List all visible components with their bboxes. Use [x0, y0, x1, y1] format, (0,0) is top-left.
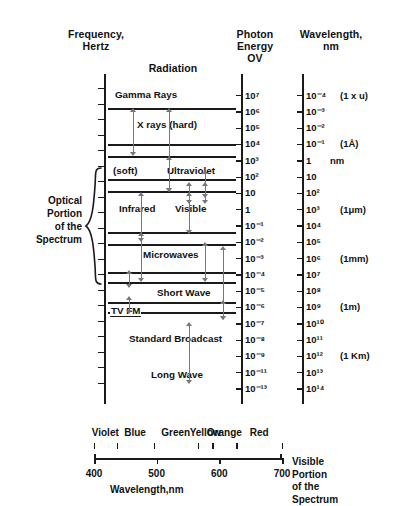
wavelength-tick-note: (1Å) [340, 139, 358, 149]
visible-tick-label: 600 [211, 468, 228, 479]
photon-energy-tick-label: 10⁻¹³ [245, 384, 267, 394]
wavelength-tick-note: (1 x u) [340, 91, 368, 101]
wavelength-tick-label: 1 [306, 156, 311, 166]
band-extent-arrow [186, 322, 193, 384]
visible-major-tick [157, 458, 159, 464]
photon-energy-tick [236, 323, 241, 324]
wavelength-tick-label: 10¹² [306, 351, 323, 361]
frequency-tick [98, 88, 105, 89]
band-extent-arrow [186, 192, 193, 234]
radiation-column-header: Radiation [128, 62, 218, 74]
visible-tick-label: 400 [86, 468, 103, 479]
frequency-tick [98, 104, 105, 105]
band-label: Gamma Rays [114, 90, 178, 100]
visible-color-separator [154, 443, 155, 449]
band-label: Standard Broadcast [128, 334, 223, 344]
photon-energy-tick-label: 10⁻¹¹ [245, 368, 267, 378]
wavelength-axis-line [302, 74, 304, 404]
wavelength-tick-note: (1m) [340, 302, 360, 312]
optical-portion-label: Optical Portion of the Spectrum [6, 194, 82, 246]
frequency-tick [98, 336, 105, 337]
visible-major-tick [94, 458, 96, 464]
wavelength-tick-label: 10¹¹ [306, 335, 323, 345]
photon-energy-tick-label: 1 [245, 205, 250, 215]
photon-energy-tick-label: 10⁷ [245, 91, 260, 101]
wavelength-tick-label: 10⁸ [306, 286, 321, 296]
band-extent-arrow [126, 270, 133, 288]
frequency-axis-line [104, 74, 106, 404]
photon-energy-tick-label: 10² [245, 172, 259, 182]
photon-energy-tick-label: 10⁶ [245, 107, 260, 117]
visible-portion-side-label: Visible Portion of the Spectrum [292, 456, 338, 506]
band-extent-arrow [202, 242, 209, 282]
wavelength-tick [297, 340, 302, 341]
visible-major-tick [282, 458, 284, 464]
frequency-tick [98, 150, 105, 151]
wavelength-tick-label: 10¹⁰ [306, 319, 324, 329]
visible-color-separator [236, 443, 237, 449]
visible-spectrum-scale: 400500600700VioletBlueGreenYellowOrangeR… [0, 420, 400, 502]
band-label: Long Wave [150, 370, 204, 380]
wavelength-tick-label: 10⁷ [306, 270, 321, 280]
photon-energy-tick [236, 340, 241, 341]
photon-energy-tick-label: 10⁵ [245, 123, 260, 133]
band-extent-arrow [138, 232, 145, 282]
photon-energy-tick [236, 356, 241, 357]
frequency-tick [98, 383, 105, 384]
band-extent-arrow [166, 156, 173, 192]
photon-energy-tick [236, 209, 241, 210]
wavelength-tick-label: 10⁴ [306, 221, 321, 231]
photon-energy-tick-label: 10⁻⁴ [245, 270, 265, 280]
band-extent-arrow [220, 300, 227, 320]
wavelength-tick [297, 242, 302, 243]
wavelength-tick [297, 95, 302, 96]
photon-energy-tick [236, 95, 241, 96]
visible-tick-label: 500 [148, 468, 165, 479]
wavelength-tick [297, 372, 302, 373]
photon-energy-axis-line [241, 74, 243, 404]
photon-energy-tick [236, 372, 241, 373]
photon-energy-tick-label: 10⁻⁸ [245, 335, 265, 345]
wavelength-tick [297, 388, 302, 389]
wavelength-tick-label: 10³ [306, 205, 320, 215]
wavelength-tick [297, 274, 302, 275]
frequency-tick [98, 352, 105, 353]
visible-tick-label: 700 [274, 468, 291, 479]
photon-energy-tick-label: 10⁻⁶ [245, 302, 265, 312]
band-label: Microwaves [142, 250, 200, 260]
photon-energy-tick-label: 10⁻⁷ [245, 319, 265, 329]
photon-energy-tick-label: 10⁻⁵ [245, 286, 265, 296]
photon-energy-tick-label: 10⁻⁹ [245, 351, 265, 361]
wavelength-tick-note: nm [330, 156, 344, 166]
photon-energy-tick [236, 144, 241, 145]
photon-energy-column-header: Photon Energy OV [228, 28, 282, 64]
wavelength-tick-label: 10⁻¹ [306, 139, 325, 149]
photon-energy-tick [236, 128, 241, 129]
visible-color-name: Blue [124, 427, 146, 438]
visible-color-separator [117, 443, 118, 449]
photon-energy-tick [236, 258, 241, 259]
wavelength-tick [297, 323, 302, 324]
wavelength-tick-label: 10¹⁴ [306, 384, 324, 394]
photon-energy-tick [236, 177, 241, 178]
wavelength-tick-note: (1μm) [340, 205, 366, 215]
visible-color-separator [282, 443, 283, 449]
wavelength-tick-label: 10⁻² [306, 123, 325, 133]
band-divider [108, 232, 236, 234]
frequency-tick [98, 135, 105, 136]
band-label: Short Wave [156, 288, 212, 298]
wavelength-tick-label: 10⁵ [306, 237, 321, 247]
wavelength-tick [297, 177, 302, 178]
frequency-tick [98, 321, 105, 322]
wavelength-tick [297, 128, 302, 129]
wavelength-tick-label: 10² [306, 188, 320, 198]
photon-energy-tick-label: 10⁻¹ [245, 221, 264, 231]
visible-spectrum-axis [94, 458, 282, 460]
wavelength-tick [297, 144, 302, 145]
wavelength-tick [297, 111, 302, 112]
wavelength-tick-label: 10⁶ [306, 254, 321, 264]
visible-major-tick [219, 458, 221, 464]
photon-energy-tick-label: 10 [245, 188, 256, 198]
wavelength-tick [297, 356, 302, 357]
